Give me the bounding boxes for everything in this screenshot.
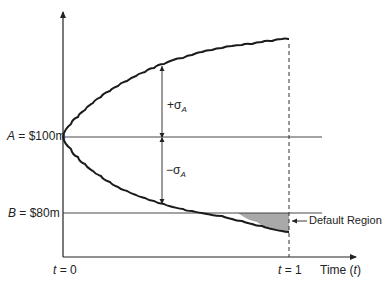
asset-value-text: = $100m — [15, 129, 65, 143]
plus-sigma-label: +σA — [167, 98, 187, 114]
x-axis-label-post: ) — [357, 263, 361, 277]
t0-label: t = 0 — [53, 263, 77, 277]
asset-value-label: A = $100m — [7, 129, 65, 143]
diagram-root: A = $100m B = $80m +σA −σA t = 0 t = 1 T… — [0, 0, 383, 284]
default-region-text: Default Region — [309, 214, 382, 226]
minus-sigma-label: −σA — [166, 163, 186, 179]
sigma-subscript: A — [180, 170, 185, 179]
sigma-subscript: A — [181, 105, 186, 114]
barrier-label: B = $80m — [8, 206, 60, 220]
minus-sigma-text: −σ — [166, 163, 180, 177]
t0-value: = 0 — [56, 263, 76, 277]
default-region-label: Default Region — [309, 214, 382, 226]
t1-value: = 1 — [281, 263, 301, 277]
x-axis-label-pre: Time ( — [320, 263, 354, 277]
barrier-symbol: B — [8, 206, 16, 220]
t1-label: t = 1 — [278, 263, 302, 277]
asset-symbol: A — [7, 129, 15, 143]
plus-sigma-text: +σ — [167, 98, 181, 112]
x-axis-label: Time (t) — [320, 263, 361, 277]
barrier-value-text: = $80m — [16, 206, 60, 220]
upper-sigma-path — [63, 39, 289, 137]
